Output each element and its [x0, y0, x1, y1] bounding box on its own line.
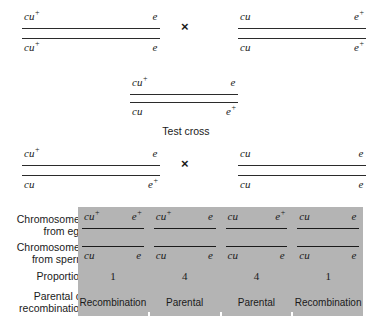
- allele-label: cu: [240, 147, 251, 159]
- chromosome-egg: cu e+: [226, 210, 288, 229]
- chromosome-bar: [130, 94, 238, 95]
- allele-label: e: [231, 76, 236, 88]
- chromosome-egg: cu+ e: [154, 210, 216, 229]
- allele-label: e: [153, 147, 158, 159]
- chromosome-bottom: cu e+: [22, 175, 160, 194]
- allele-label: cu+: [132, 76, 147, 88]
- allele-label: cu+: [24, 147, 39, 159]
- allele-label: cu: [240, 10, 251, 22]
- chromosome-bar: [22, 38, 160, 39]
- chromosome-bottom: cu e+: [130, 102, 238, 121]
- allele-label: e: [352, 210, 357, 222]
- spacer: [82, 229, 144, 246]
- row-label-proportion: Proportion: [0, 270, 85, 282]
- classification-value: Recombination: [295, 297, 362, 308]
- row-label-line: Parental or: [0, 290, 85, 302]
- chromosome-top: cu e: [238, 147, 366, 166]
- table-cell-gametes: cu+ e cu e: [150, 207, 220, 263]
- table-cell-proportion: 4: [150, 265, 220, 287]
- row-label-line: Chromosomes: [0, 213, 85, 225]
- table-cell-classification: Parental: [150, 289, 220, 316]
- allele-label: cu: [240, 41, 251, 53]
- allele-label: e: [153, 41, 158, 53]
- allele-label: e: [359, 178, 364, 190]
- allele-label: e+: [354, 41, 364, 53]
- chromosome-bar: [297, 246, 359, 247]
- table-cell-gametes: cu+ e+ cu e: [78, 207, 148, 263]
- table-cell-gametes: cu e+ cu e: [222, 207, 292, 263]
- chromosome-top: cu e+: [238, 10, 366, 29]
- allele-label: e: [208, 249, 213, 261]
- proportion-value: 4: [182, 270, 188, 282]
- row-label-line: from egg: [0, 225, 85, 237]
- row-label-line: Proportion: [0, 270, 85, 282]
- classification-value: Parental: [238, 297, 275, 308]
- male-parent-genotype: cu e+ cu e+: [238, 10, 366, 57]
- proportion-value: 1: [325, 270, 331, 282]
- row-label-chromosomes-from-egg: Chromosomes from egg: [0, 213, 85, 237]
- chromosome-bar: [154, 246, 216, 247]
- table-cell-classification: Parental: [222, 289, 292, 316]
- tester-genotype: cu e cu e: [238, 147, 366, 194]
- allele-label: e: [153, 10, 158, 22]
- chromosome-bar: [22, 175, 160, 176]
- classification-value: Parental: [166, 297, 203, 308]
- allele-label: cu: [156, 249, 167, 261]
- spacer: [22, 29, 160, 38]
- chromosome-bottom: cu+ e: [22, 38, 160, 57]
- chromosome-bar: [22, 165, 160, 166]
- chromosome-top: cu+ e: [130, 76, 238, 95]
- table-cell-classification: Recombination: [293, 289, 363, 316]
- chromosome-bottom: cu e+: [238, 38, 366, 57]
- allele-label: cu: [132, 105, 143, 117]
- gamete-pair: cu+ e cu e: [154, 210, 216, 265]
- chromosome-sperm: cu e: [82, 246, 144, 265]
- chromosome-top: cu+ e: [22, 10, 160, 29]
- table-cell-proportion: 1: [293, 265, 363, 287]
- chromosome-bottom: cu e: [238, 175, 366, 194]
- chromosome-sperm: cu e: [226, 246, 288, 265]
- chromosome-bar: [130, 102, 238, 103]
- chromosome-bar: [238, 165, 366, 166]
- chromosome-bar: [238, 175, 366, 176]
- spacer: [226, 229, 288, 246]
- allele-label: cu: [24, 178, 35, 190]
- allele-label: cu: [299, 249, 310, 261]
- allele-label: cu+: [24, 41, 39, 53]
- allele-label: e+: [354, 10, 364, 22]
- chromosome-bar: [238, 28, 366, 29]
- test-cross-caption: Test cross: [136, 125, 236, 137]
- allele-label: e: [280, 249, 285, 261]
- chromosome-bar: [82, 228, 144, 229]
- allele-label: cu+: [84, 210, 99, 222]
- allele-label: cu: [299, 210, 310, 222]
- row-label-parental-or-recombination: Parental or recombination: [0, 290, 85, 314]
- test-cross-f1-genotype: cu+ e cu e+: [22, 147, 160, 194]
- proportion-value: 1: [110, 270, 116, 282]
- chromosome-sperm: cu e: [154, 246, 216, 265]
- table-cell-gametes: cu e cu e: [293, 207, 363, 263]
- allele-label: cu: [228, 210, 239, 222]
- results-table: cu+ e+ cu e cu+ e cu e: [78, 207, 363, 312]
- spacer: [154, 229, 216, 246]
- classification-value: Recombination: [80, 297, 147, 308]
- row-label-line: from sperm: [0, 253, 85, 265]
- chromosome-bar: [154, 228, 216, 229]
- allele-label: e+: [275, 210, 285, 222]
- cross-symbol-testcross: ×: [181, 157, 189, 170]
- allele-label: e+: [132, 210, 142, 222]
- chromosome-bar: [226, 228, 288, 229]
- chromosome-egg: cu+ e+: [82, 210, 144, 229]
- gamete-pair: cu e+ cu e: [226, 210, 288, 265]
- allele-label: e+: [226, 105, 236, 117]
- cross-symbol-parental: ×: [181, 20, 189, 33]
- row-label-line: Chromosomes: [0, 241, 85, 253]
- proportion-value: 4: [254, 270, 260, 282]
- allele-label: e: [208, 210, 213, 222]
- f1-genotype: cu+ e cu e+: [130, 76, 238, 121]
- allele-label: cu+: [24, 10, 39, 22]
- allele-label: e: [359, 147, 364, 159]
- table-cell-proportion: 1: [78, 265, 148, 287]
- chromosome-sperm: cu e: [297, 246, 359, 265]
- table-cell-proportion: 4: [222, 265, 292, 287]
